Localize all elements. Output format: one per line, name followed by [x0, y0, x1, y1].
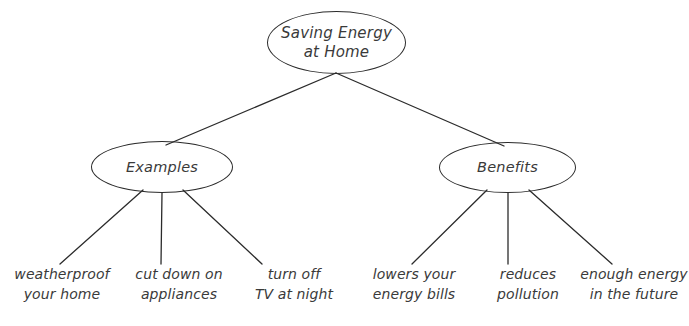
edge-root-to-examples [166, 73, 336, 145]
edge-benefits-to-bills [412, 190, 487, 264]
leaf-enough-energy-in-the-future: enough energy in the future [580, 264, 688, 305]
leaf-weatherproof-your-home: weatherproof your home [4, 264, 120, 305]
node-root: Saving Energy at Home [267, 11, 406, 74]
leaf-reduces-pollution: reduces pollution [476, 264, 580, 305]
edge-root-to-benefits [336, 73, 504, 146]
edge-examples-to-appliances [161, 193, 162, 264]
edge-benefits-to-future [529, 190, 612, 264]
leaf-cut-down-on-appliances: cut down on appliances [120, 264, 238, 305]
node-examples: Examples [91, 141, 233, 193]
node-benefits: Benefits [439, 142, 576, 193]
edge-examples-to-tv [183, 190, 262, 264]
leaf-lowers-your-energy-bills: lowers your energy bills [356, 264, 472, 305]
leaf-turn-off-tv-at-night: turn off TV at night [238, 264, 350, 305]
node-examples-label: Examples [126, 158, 198, 176]
edge-examples-to-weatherproof [60, 190, 143, 264]
concept-map-diagram: Saving Energy at Home Examples Benefits … [0, 0, 689, 326]
node-root-label: Saving Energy at Home [281, 24, 392, 62]
node-benefits-label: Benefits [477, 158, 538, 176]
